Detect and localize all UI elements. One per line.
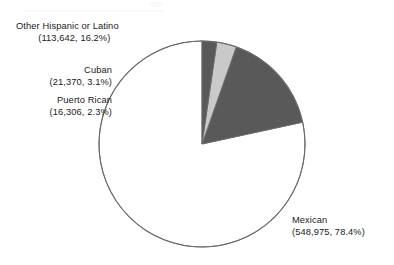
slice-label-value: (21,370, 3.1%) — [8, 76, 112, 88]
slice-label-puerto-rican: Puerto Rican (16,306, 2.3%) — [2, 94, 112, 118]
slice-label-name: Cuban — [8, 64, 112, 76]
slice-label-value: (16,306, 2.3%) — [2, 106, 112, 118]
slice-label-name: Mexican — [292, 214, 365, 226]
pie-slice-group — [99, 41, 305, 247]
slice-label-cuban: Cuban (21,370, 3.1%) — [8, 64, 112, 88]
slice-label-name: Puerto Rican — [2, 94, 112, 106]
slice-label-value: (113,642, 16.2%) — [16, 32, 119, 44]
slice-label-value: (548,975, 78.4%) — [292, 226, 365, 238]
pie-chart-figure: Other Hispanic or Latino (113,642, 16.2%… — [0, 0, 394, 265]
slice-label-other-hispanic-or-latino: Other Hispanic or Latino (113,642, 16.2%… — [16, 20, 119, 44]
slice-label-mexican: Mexican (548,975, 78.4%) — [292, 214, 365, 238]
slice-label-name: Other Hispanic or Latino — [16, 20, 119, 32]
